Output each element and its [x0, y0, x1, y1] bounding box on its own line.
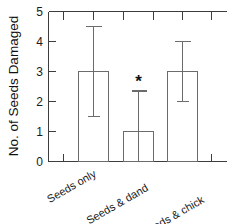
y-tick-label-2: 2: [36, 95, 43, 109]
x-tick-label-seeds-and-chick: Seeds & chick: [140, 193, 207, 224]
significance-star-seeds-and-dand: *: [135, 72, 142, 91]
y-tick-label-5: 5: [36, 5, 43, 19]
y-tick-label-3: 3: [36, 65, 43, 79]
x-tick-labels: Seeds only Seeds & dand Seeds & chick: [45, 167, 207, 224]
y-axis-title: No. of Seeds Damaged: [6, 16, 21, 156]
bar-chart-figure: 5 4 3 2 1 0 No. of Seeds Damaged * Seeds…: [0, 0, 238, 224]
y-tick-label-0: 0: [36, 155, 43, 169]
y-tick-marks: [49, 12, 56, 162]
y-tick-label-4: 4: [36, 35, 43, 49]
y-tick-label-1: 1: [36, 125, 43, 139]
x-tick-label-seeds-only: Seeds only: [45, 167, 99, 205]
chart-canvas: 5 4 3 2 1 0 No. of Seeds Damaged * Seeds…: [0, 0, 238, 224]
x-tick-label-seeds-and-dand: Seeds & dand: [84, 181, 150, 224]
y-tick-labels: 5 4 3 2 1 0: [36, 5, 43, 169]
